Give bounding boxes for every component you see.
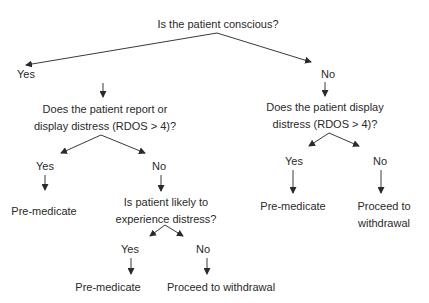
no-label: No — [321, 66, 335, 83]
reported-distress-question: Does the patient report or display distr… — [34, 101, 176, 135]
decision-tree-diagram: Is the patient conscious? Yes No Does th… — [0, 0, 429, 303]
no-label: No — [373, 153, 387, 170]
yes-label: Yes — [121, 241, 139, 258]
likely-distress-question: Is patient likely to experience distress… — [116, 194, 217, 228]
question-line: distress (RDOS > 4)? — [266, 116, 383, 133]
outcome-line: withdrawal — [357, 215, 410, 232]
question-line: Does the patient report or — [34, 101, 176, 118]
outcome-pre-medicate: Pre-medicate — [75, 279, 140, 296]
yes-label: Yes — [36, 158, 54, 175]
root-question: Is the patient conscious? — [157, 16, 278, 33]
connector-arrows — [0, 0, 429, 303]
outcome-line: Proceed to — [357, 198, 410, 215]
question-line: Is patient likely to — [116, 194, 217, 211]
question-line: Does the patient display — [266, 99, 383, 116]
question-line: display distress (RDOS > 4)? — [34, 118, 176, 135]
no-label: No — [152, 158, 166, 175]
displayed-distress-question: Does the patient display distress (RDOS … — [266, 99, 383, 133]
yes-label: Yes — [285, 153, 303, 170]
no-label: No — [196, 241, 210, 258]
outcome-proceed-to-withdrawal: Proceed to withdrawal — [357, 198, 410, 232]
outcome-pre-medicate: Pre-medicate — [11, 203, 76, 220]
question-line: experience distress? — [116, 211, 217, 228]
yes-label: Yes — [17, 66, 35, 83]
outcome-pre-medicate: Pre-medicate — [260, 198, 325, 215]
outcome-proceed-to-withdrawal: Proceed to withdrawal — [167, 279, 275, 296]
